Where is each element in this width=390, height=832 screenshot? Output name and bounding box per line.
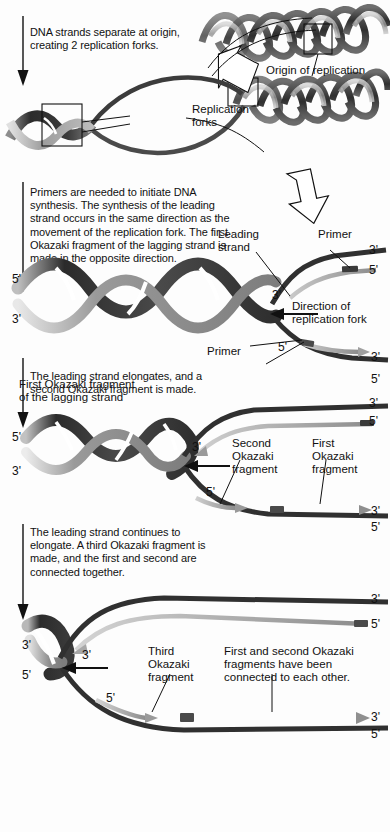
label-primer-bottom: Primer	[207, 345, 241, 358]
step-3-double-helix	[26, 420, 193, 474]
step-3-description: The leading strand elongates, and a seco…	[30, 370, 220, 396]
prime-5-right-lower-step3: 5'	[371, 520, 380, 534]
label-primer-top: Primer	[318, 228, 352, 241]
label-origin-of-replication: Origin of replication	[266, 64, 365, 77]
label-replication-forks: Replication forks	[192, 103, 249, 129]
prime-3-left-top-step4: 3'	[22, 638, 31, 652]
label-leading-strand: Leading strand	[218, 228, 259, 254]
prime-3-fork-upper-step3: 3'	[192, 440, 201, 454]
label-direction-of-replication-fork: Direction of replication fork	[292, 300, 367, 326]
primer-cap-connected-step4	[180, 713, 194, 722]
prime-3-right-lower-step2: 3'	[371, 350, 380, 364]
primer-cap-first-okazaki-step3	[270, 506, 284, 513]
prime-5-right-top-step4: 5'	[371, 617, 380, 631]
dna-replication-figure: DNA strands separate at origin, creating…	[0, 0, 390, 832]
prime-5-left-top-step2: 5'	[12, 272, 21, 286]
prime-5-fork-lower-step3: 5'	[206, 485, 215, 499]
step-1-description: DNA strands separate at origin, creating…	[30, 26, 200, 52]
prime-3-fork-upper-step4: 3'	[82, 648, 91, 662]
prime-3-right-top-step2: 3'	[369, 243, 378, 257]
label-first-okazaki-fragment: First Okazaki fragment	[312, 437, 357, 476]
prime-3-left-bottom-step3: 3'	[12, 464, 21, 478]
prime-5-left-top-step3: 5'	[12, 430, 21, 444]
prime-5-fork-lower-step4: 5'	[106, 691, 115, 705]
step-4-description: The leading strand continues to elongate…	[30, 526, 216, 579]
leader-primer-bottom	[250, 340, 302, 346]
primer-cap-leading-step4	[354, 620, 368, 627]
step-1-replication-bubble-graphic	[6, 60, 306, 170]
primer-block-top	[342, 266, 358, 273]
prime-5-right-top-step2: 5'	[369, 263, 378, 277]
prime-5-right-lower-step4: 5'	[371, 727, 380, 741]
prime-3-right-lower-step3: 3'	[371, 504, 380, 518]
label-first-second-connected: First and second Okazaki fragments have …	[224, 645, 354, 684]
label-second-okazaki-fragment: Second Okazaki fragment	[232, 437, 277, 476]
prime-5-right-lower-step2: 5'	[371, 372, 380, 386]
label-third-okazaki-fragment: Third Okazaki fragment	[148, 645, 193, 684]
prime-3-left-bottom-step2: 3'	[12, 312, 21, 326]
prime-3-right-top-step4: 3'	[371, 592, 380, 606]
step-4-short-helix	[28, 621, 68, 674]
prime-3-right-lower-step4: 3'	[371, 710, 380, 724]
prime-5-left-bottom-step4: 5'	[22, 668, 31, 682]
prime-3-fork-upper-step2: 3'	[272, 288, 281, 302]
prime-5-right-top-step3: 5'	[369, 414, 378, 428]
prime-3-right-top-step3: 3'	[369, 396, 378, 410]
figure-caption-block: ONLINE ANIMATION FIGURE 13.10 The synthe…	[0, 744, 390, 832]
prime-5-fork-lower-step2: 5'	[278, 340, 287, 354]
step-2-double-helix	[18, 264, 276, 328]
